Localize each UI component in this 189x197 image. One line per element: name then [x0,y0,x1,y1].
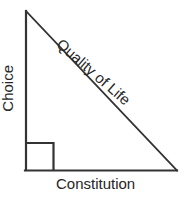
right-angle-marker-icon [26,143,54,170]
hypotenuse-line [26,11,177,171]
right-triangle-shape [0,0,189,197]
base-label: Constitution [56,176,135,191]
vertical-leg-label: Choice [0,65,15,112]
diagram-canvas: Choice Constitution Quality of Life [0,0,189,197]
